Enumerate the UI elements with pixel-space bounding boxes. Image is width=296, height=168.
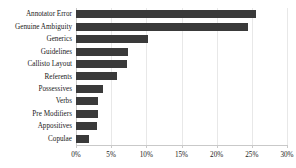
bar-row bbox=[76, 133, 287, 145]
x-axis-tick bbox=[182, 145, 183, 148]
category-label: Callisto Layout bbox=[0, 60, 72, 68]
x-axis-tick-labels: 0%5%10%15%20%25%30% bbox=[0, 150, 296, 164]
bar-row bbox=[76, 58, 287, 70]
x-axis-tick bbox=[146, 145, 147, 148]
category-label: Guidelines bbox=[0, 48, 72, 56]
bar-row bbox=[76, 20, 287, 32]
x-axis-tick bbox=[76, 145, 77, 148]
bar[interactable] bbox=[76, 122, 97, 130]
category-label: Generics bbox=[0, 35, 72, 43]
bar[interactable] bbox=[76, 10, 256, 18]
x-axis-tick-label: 30% bbox=[272, 150, 296, 160]
bar-row bbox=[76, 95, 287, 107]
bar-row bbox=[76, 45, 287, 57]
bar-row bbox=[76, 33, 287, 45]
bar[interactable] bbox=[76, 60, 127, 68]
bar-row bbox=[76, 120, 287, 132]
x-axis-tick-label: 20% bbox=[202, 150, 232, 160]
plot-area bbox=[76, 8, 287, 145]
category-label: Possessives bbox=[0, 85, 72, 93]
x-axis-tick-label: 25% bbox=[237, 150, 267, 160]
x-axis-tick-label: 5% bbox=[96, 150, 126, 160]
bar-row bbox=[76, 108, 287, 120]
category-label: Annotator Error bbox=[0, 10, 72, 18]
x-axis-tick bbox=[217, 145, 218, 148]
gridline-30 bbox=[287, 8, 288, 145]
bar[interactable] bbox=[76, 48, 128, 56]
x-axis-tick bbox=[111, 145, 112, 148]
category-axis-labels: Annotator ErrorGenuine AmbiguityGenerics… bbox=[0, 8, 72, 145]
bar[interactable] bbox=[76, 72, 117, 80]
bar-row bbox=[76, 83, 287, 95]
bar-row bbox=[76, 70, 287, 82]
bar-row bbox=[76, 8, 287, 20]
bar-chart: Horizontal bar chart of annotation disag… bbox=[0, 0, 296, 168]
x-axis-tick-label: 15% bbox=[167, 150, 197, 160]
bar[interactable] bbox=[76, 135, 89, 143]
category-label: Genuine Ambiguity bbox=[0, 23, 72, 31]
x-axis-tick-label: 10% bbox=[131, 150, 161, 160]
category-label: Copulae bbox=[0, 135, 72, 143]
category-label: Pre Modifiers bbox=[0, 110, 72, 118]
category-label: Appositives bbox=[0, 122, 72, 130]
x-axis-tick bbox=[252, 145, 253, 148]
category-label: Referents bbox=[0, 73, 72, 81]
bar[interactable] bbox=[76, 23, 248, 31]
bar[interactable] bbox=[76, 110, 98, 118]
bar[interactable] bbox=[76, 85, 103, 93]
bar[interactable] bbox=[76, 97, 98, 105]
x-axis-tick-label: 0% bbox=[61, 150, 91, 160]
x-axis-tick bbox=[287, 145, 288, 148]
category-label: Verbs bbox=[0, 97, 72, 105]
bar[interactable] bbox=[76, 35, 148, 43]
chart-description: Horizontal bar chart of annotation disag… bbox=[0, 0, 1, 1]
